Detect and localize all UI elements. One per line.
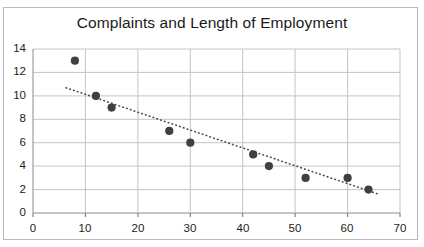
data-point <box>92 92 100 100</box>
data-point <box>108 104 116 112</box>
y-tick-label-10: 10 <box>2 89 26 101</box>
data-point <box>249 150 257 158</box>
trendline <box>66 88 379 195</box>
data-point <box>186 139 194 147</box>
x-tick-label-40: 40 <box>228 222 258 234</box>
x-tick-label-0: 0 <box>18 222 48 234</box>
y-tick-label-14: 14 <box>2 42 26 54</box>
data-point <box>265 162 273 170</box>
y-tick-label-12: 12 <box>2 65 26 77</box>
horizontal-gridlines <box>33 49 400 213</box>
data-point <box>344 174 352 182</box>
x-tick-label-50: 50 <box>280 222 310 234</box>
y-tick-label-0: 0 <box>2 206 26 218</box>
x-axis-ticks <box>33 213 400 217</box>
data-points <box>71 57 373 194</box>
x-tick-label-70: 70 <box>385 222 415 234</box>
data-point <box>364 186 372 194</box>
x-tick-label-60: 60 <box>332 222 362 234</box>
data-point <box>165 127 173 135</box>
chart-figure: Complaints and Length of Employment <box>0 0 424 247</box>
y-tick-label-4: 4 <box>2 159 26 171</box>
x-tick-label-20: 20 <box>123 222 153 234</box>
y-tick-label-2: 2 <box>2 183 26 195</box>
y-tick-label-6: 6 <box>2 136 26 148</box>
y-tick-label-8: 8 <box>2 112 26 124</box>
data-point <box>302 174 310 182</box>
scatter-plot-area <box>0 0 424 247</box>
vertical-gridlines <box>33 49 400 213</box>
data-point <box>71 57 79 65</box>
x-tick-label-30: 30 <box>175 222 205 234</box>
x-tick-label-10: 10 <box>70 222 100 234</box>
